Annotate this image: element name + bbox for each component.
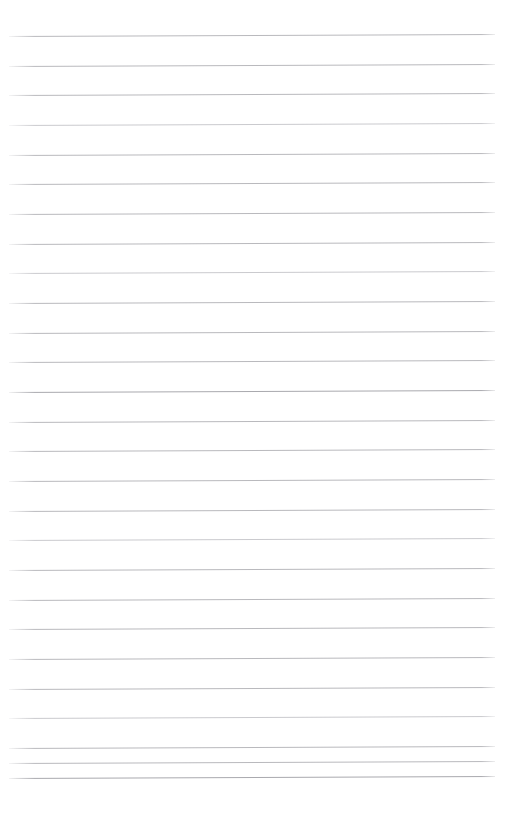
writing-line[interactable] [9,542,495,570]
writing-line[interactable] [9,245,495,273]
writing-line[interactable] [9,305,495,333]
writing-line[interactable] [9,97,495,125]
writing-line[interactable] [9,394,495,422]
writing-line[interactable] [9,661,495,689]
writing-line[interactable] [9,483,495,511]
writing-line[interactable] [9,67,495,95]
writing-line[interactable] [9,275,495,303]
writing-line[interactable] [9,127,495,155]
writing-line[interactable] [9,216,495,244]
writing-line[interactable] [9,601,495,629]
writing-line[interactable] [9,631,495,659]
writing-line[interactable] [9,750,495,778]
writing-line[interactable] [9,186,495,214]
writing-line[interactable] [9,690,495,718]
writing-line[interactable] [9,512,495,540]
writing-line[interactable] [9,8,495,36]
writing-line[interactable] [9,156,495,184]
writing-line[interactable] [9,423,495,451]
writing-line[interactable] [9,334,495,362]
writing-line[interactable] [9,453,495,481]
writing-line[interactable] [9,572,495,600]
ruled-paper-page [0,0,520,820]
writing-line[interactable] [9,364,495,392]
writing-line[interactable] [9,38,495,66]
writing-area[interactable] [0,0,520,820]
